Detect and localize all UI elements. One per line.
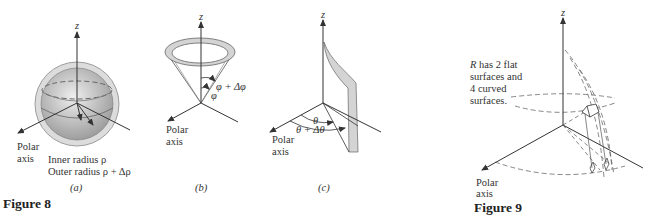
polar-axis bbox=[168, 103, 201, 121]
figure9: z R has 2 flat surfaces and 4 curved sur… bbox=[469, 7, 643, 215]
z-label: z bbox=[320, 9, 325, 20]
half-plane-wedge bbox=[324, 42, 358, 152]
dashed-arc-5 bbox=[515, 103, 615, 112]
polar-axis-label-2: axis bbox=[17, 153, 34, 164]
projection-shape-1 bbox=[590, 162, 595, 173]
region-r-box bbox=[582, 104, 599, 117]
note-line-1: R has 2 flat bbox=[469, 59, 518, 70]
figure8-panel-b: z φ φ + Δφ Polar axis (b) bbox=[165, 11, 246, 194]
z-label: z bbox=[198, 11, 203, 22]
figure8-caption: Figure 8 bbox=[3, 196, 51, 211]
z-label: z bbox=[560, 7, 565, 18]
figure8-panel-c: z θ θ + Δθ Polar axis (c) bbox=[270, 9, 381, 194]
polar-axis-label-2: axis bbox=[476, 188, 493, 199]
cone-rim-inner bbox=[172, 43, 228, 63]
y-axis bbox=[201, 103, 238, 122]
polar-axis-label: Polar bbox=[17, 141, 40, 152]
note-line-3: 4 curved bbox=[470, 83, 507, 94]
theta-delta-label: θ + Δθ bbox=[296, 124, 325, 135]
phi-arc bbox=[201, 87, 209, 89]
theta-ray bbox=[323, 103, 349, 152]
z-label: z bbox=[74, 20, 79, 31]
outer-radius-label: Outer radius ρ + Δρ bbox=[48, 166, 131, 177]
phi-delta-arc bbox=[201, 77, 215, 81]
figure9-caption: Figure 9 bbox=[474, 200, 522, 215]
polar-axis-label-2: axis bbox=[272, 146, 289, 157]
polar-axis-label-2: axis bbox=[166, 136, 183, 147]
dashed-ray-1 bbox=[563, 125, 600, 170]
inner-radius-label: Inner radius ρ bbox=[48, 154, 106, 165]
panel-a-sublabel: (a) bbox=[70, 182, 83, 194]
polar-axis-label: Polar bbox=[476, 177, 499, 188]
projection-shape-2 bbox=[604, 158, 609, 170]
panel-b-sublabel: (b) bbox=[195, 182, 208, 194]
polar-axis-label: Polar bbox=[166, 124, 189, 135]
dashed-arc-3 bbox=[580, 70, 612, 170]
figure8-panel-a: z Polar axis Inner radius ρ Outer radius… bbox=[17, 20, 131, 194]
polar-axis-label: Polar bbox=[272, 134, 295, 145]
dashed-ray-3 bbox=[563, 112, 585, 125]
projection-line-1 bbox=[585, 114, 592, 168]
figure-canvas: z Polar axis Inner radius ρ Outer radius… bbox=[0, 0, 658, 216]
note-line-2: surfaces and bbox=[470, 71, 523, 82]
panel-c-sublabel: (c) bbox=[318, 182, 330, 194]
phi-delta-label: φ + Δφ bbox=[216, 81, 246, 92]
note-line-4: surfaces. bbox=[470, 95, 507, 106]
polar-axis bbox=[482, 125, 563, 170]
